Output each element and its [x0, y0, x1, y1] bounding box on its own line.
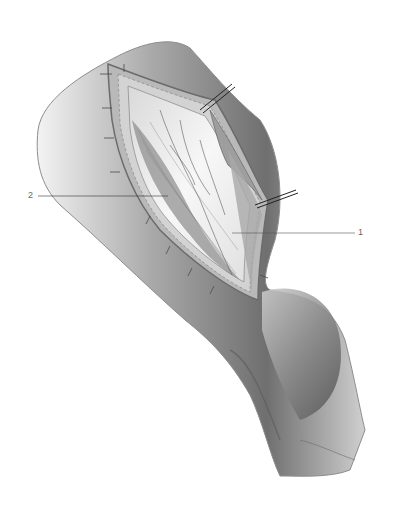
label-2: 2 — [28, 190, 33, 200]
surgical-illustration — [0, 0, 394, 506]
illustration-canvas: 2 1 — [0, 0, 394, 506]
label-1: 1 — [358, 227, 363, 237]
